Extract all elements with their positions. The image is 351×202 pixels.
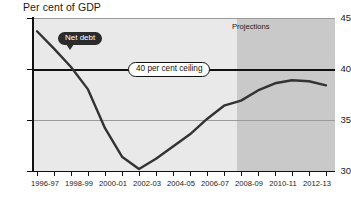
net-debt-callout-tail <box>66 44 74 50</box>
x-tick-label-2002-03: 2002-03 <box>133 179 161 188</box>
x-tick-label-2000-01: 2000-01 <box>99 179 127 188</box>
y-tick-label-35: 35 <box>326 114 351 125</box>
x-tick-label-2010-11: 2010-11 <box>269 179 296 188</box>
x-tick-0 <box>37 171 38 176</box>
x-tick-3 <box>88 171 89 176</box>
y-axis <box>32 17 34 172</box>
gridline-45 <box>33 18 335 19</box>
x-tick-6 <box>139 171 140 176</box>
y-tick-45 <box>27 18 33 20</box>
x-tick-label-2012-13: 2012-13 <box>303 179 331 188</box>
x-tick-14 <box>275 171 276 176</box>
x-tick-label-2004-05: 2004-05 <box>167 179 195 188</box>
x-tick-2 <box>71 171 72 176</box>
ceiling-callout: 40 per cent ceiling <box>128 62 210 77</box>
x-tick-label-1998-99: 1998-99 <box>65 179 93 188</box>
x-tick-4 <box>105 171 106 176</box>
y-tick-30 <box>27 171 33 173</box>
gridline-35 <box>33 120 335 121</box>
x-tick-label-1996-97: 1996-97 <box>31 179 59 188</box>
x-tick-16 <box>309 171 310 176</box>
x-tick-17 <box>326 171 327 176</box>
x-tick-10 <box>207 171 208 176</box>
net-debt-callout: Net debt <box>58 32 102 45</box>
x-tick-12 <box>241 171 242 176</box>
x-tick-7 <box>156 171 157 176</box>
x-tick-1 <box>54 171 55 176</box>
x-tick-label-2006-07: 2006-07 <box>201 179 229 188</box>
x-tick-label-2008-09: 2008-09 <box>235 179 263 188</box>
x-axis <box>33 171 335 173</box>
net-debt-chart: Per cent of GDP Projections 45 40 35 30 … <box>0 0 351 202</box>
x-tick-11 <box>224 171 225 176</box>
projections-label: Projections <box>232 22 270 31</box>
y-tick-label-45: 45 <box>326 12 351 23</box>
x-tick-8 <box>173 171 174 176</box>
y-tick-label-40: 40 <box>326 63 351 74</box>
y-tick-35 <box>27 120 33 122</box>
page-title: Per cent of GDP <box>23 1 101 13</box>
y-tick-40 <box>27 69 33 71</box>
y-tick-label-30: 30 <box>326 165 351 176</box>
x-tick-13 <box>258 171 259 176</box>
x-tick-5 <box>122 171 123 176</box>
x-tick-9 <box>190 171 191 176</box>
x-tick-15 <box>292 171 293 176</box>
projections-band <box>237 18 335 171</box>
